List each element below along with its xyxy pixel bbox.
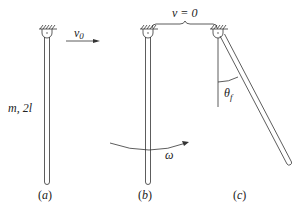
panel-c: θf (c) [210, 25, 292, 202]
ceiling-hatch-icon [39, 25, 57, 29]
panel-b: ω (b) [110, 25, 189, 202]
panel-label-c: (c) [233, 188, 246, 202]
panel-a: v0 m, 2l (a) [8, 25, 100, 202]
panel-label-a: (a) [38, 188, 52, 202]
angular-velocity-label: ω [165, 148, 173, 162]
ceiling-hatch-icon [210, 25, 228, 29]
rod-label: m, 2l [8, 101, 33, 115]
velocity-label: v0 [74, 26, 84, 41]
angular-velocity-arrow-icon [110, 141, 189, 150]
ceiling-hatch-icon [140, 25, 158, 29]
brace-label: v = 0 [172, 6, 197, 20]
pendulum-diagram: v0 m, 2l (a) ω (b) v = 0 [0, 0, 299, 213]
brace: v = 0 [152, 6, 217, 28]
rod-a [45, 37, 50, 185]
angle-label: θf [224, 86, 234, 102]
angle-arc [218, 77, 238, 82]
rod-b [146, 37, 151, 185]
panel-label-b: (b) [138, 188, 152, 202]
